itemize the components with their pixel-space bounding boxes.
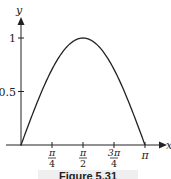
y-tick-label: 1 [9, 32, 16, 45]
x-tick-label-numerator: π [48, 147, 56, 158]
x-ticks: π4π23π4π [48, 142, 150, 169]
figure-caption-bar: Figure 5.31 [38, 170, 138, 179]
x-tick-label-numerator: π [79, 147, 87, 158]
sine-chart: y x 0.51 π4π23π4π [0, 0, 171, 170]
x-axis-label: x [166, 139, 171, 152]
x-tick-label-numerator: 3π [108, 147, 121, 158]
y-tick-label: 0.5 [0, 86, 16, 99]
x-tick-label-denominator: 4 [49, 158, 55, 169]
figure-caption: Figure 5.31 [38, 171, 138, 179]
x-tick-label-denominator: 4 [111, 158, 117, 169]
y-axis-arrow-icon [18, 17, 25, 25]
x-tick-label: π [140, 149, 149, 162]
sine-curve [21, 38, 145, 145]
y-ticks: 0.51 [0, 32, 24, 99]
x-tick-label-denominator: 2 [80, 158, 86, 169]
y-axis-label: y [15, 4, 23, 17]
